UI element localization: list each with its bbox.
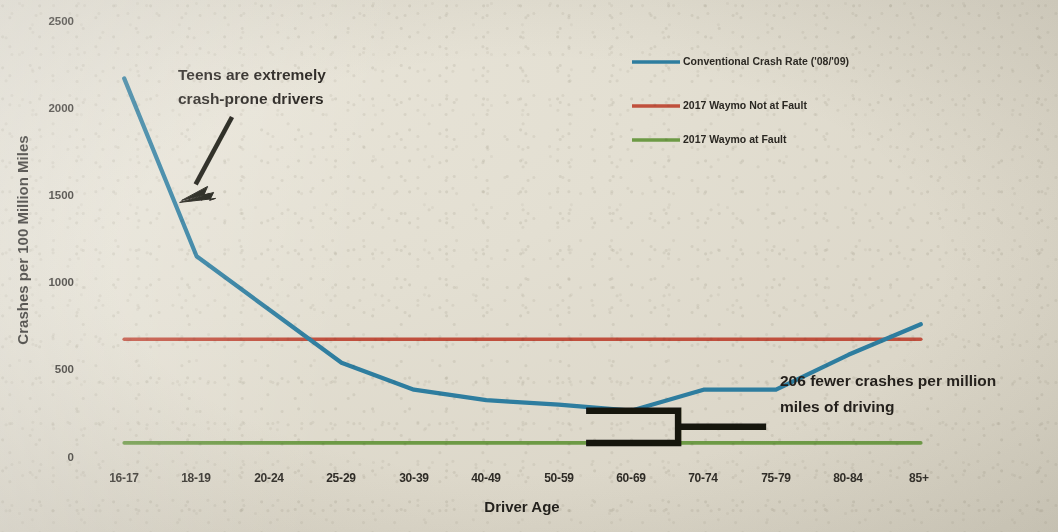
x-tick-label-16-17: 16-17 xyxy=(109,471,139,485)
y-tick-label-1000: 1000 xyxy=(48,276,74,288)
x-tick-label-60-69: 60-69 xyxy=(616,471,646,485)
x-tick-label-85plus: 85+ xyxy=(909,471,929,485)
delta-callout-line-2: miles of driving xyxy=(780,398,895,415)
crash-rate-line-chart: 2500 2000 1500 1000 500 0 Crashes per 10… xyxy=(0,0,1058,532)
annotation-delta-callout: 206 fewer crashes per million miles of d… xyxy=(586,372,996,443)
y-axis-title: Crashes per 100 Million Miles xyxy=(14,135,31,344)
teens-callout-line-2: crash-prone drivers xyxy=(178,90,324,107)
x-tick-label-25-29: 25-29 xyxy=(326,471,356,485)
x-tick-label-50-59: 50-59 xyxy=(544,471,574,485)
y-tick-label-0: 0 xyxy=(68,451,74,463)
x-tick-label-40-49: 40-49 xyxy=(471,471,501,485)
delta-callout-line-1: 206 fewer crashes per million xyxy=(780,372,996,389)
series-line-conventional-crash-rate xyxy=(124,78,921,410)
delta-bracket-icon xyxy=(586,411,766,443)
y-tick-label-1500: 1500 xyxy=(48,189,74,201)
y-tick-label-2500: 2500 xyxy=(48,15,74,27)
chart-page: 2500 2000 1500 1000 500 0 Crashes per 10… xyxy=(0,0,1058,532)
x-tick-label-75-79: 75-79 xyxy=(761,471,791,485)
legend-label-waymo-at-fault: 2017 Waymo at Fault xyxy=(683,133,787,145)
x-tick-label-80-84: 80-84 xyxy=(833,471,863,485)
x-tick-label-18-19: 18-19 xyxy=(181,471,211,485)
x-tick-label-70-74: 70-74 xyxy=(688,471,718,485)
x-tick-label-20-24: 20-24 xyxy=(254,471,284,485)
teens-callout-line-1: Teens are extremely xyxy=(178,66,326,83)
x-axis-title: Driver Age xyxy=(484,498,559,515)
legend-label-conventional: Conventional Crash Rate ('08/'09) xyxy=(683,55,849,67)
x-axis: 16-17 18-19 20-24 25-29 30-39 40-49 50-5… xyxy=(88,457,958,516)
legend: Conventional Crash Rate ('08/'09) 2017 W… xyxy=(632,55,849,145)
y-tick-label-2000: 2000 xyxy=(48,102,74,114)
y-tick-label-500: 500 xyxy=(55,363,74,375)
legend-label-waymo-not-at-fault: 2017 Waymo Not at Fault xyxy=(683,99,807,111)
x-tick-label-30-39: 30-39 xyxy=(399,471,429,485)
annotation-teens-callout: Teens are extremely crash-prone drivers xyxy=(178,66,326,202)
teens-callout-arrow-icon xyxy=(180,117,232,202)
y-axis: 2500 2000 1500 1000 500 0 Crashes per 10… xyxy=(14,15,88,463)
